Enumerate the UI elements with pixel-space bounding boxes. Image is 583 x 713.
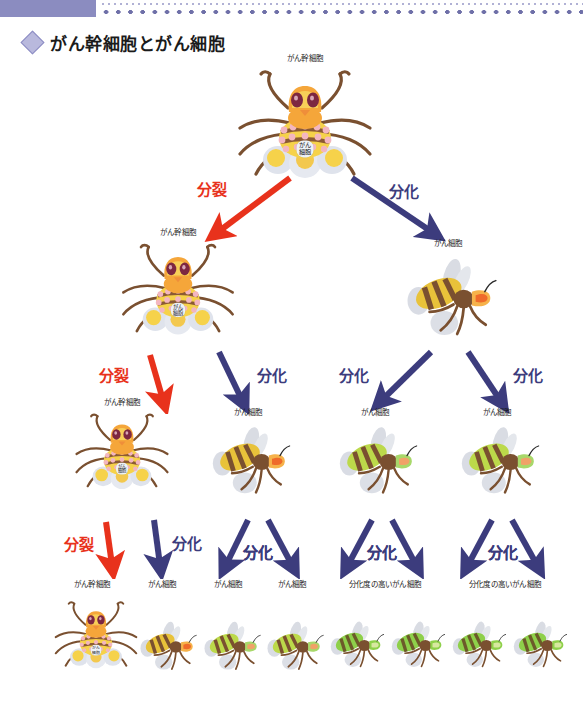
- cancer-stem-cell[interactable]: がん細胞: [115, 242, 241, 336]
- cancer-cell-badge: がん細胞: [91, 645, 102, 656]
- cell-caption: がん細胞: [483, 406, 512, 417]
- cancer-cell[interactable]: [135, 618, 198, 671]
- cell-caption: 分化度の高いがん細胞: [469, 578, 541, 589]
- differentiation-label: 分化: [243, 541, 274, 562]
- cell-caption: がん細胞: [214, 578, 243, 589]
- high-differentiated-cancer-cell[interactable]: [386, 618, 445, 669]
- cell-caption: がん幹細胞: [287, 52, 323, 63]
- cancer-cell-badge: がん細胞: [116, 462, 128, 474]
- cancer-cell[interactable]: [199, 618, 262, 671]
- cell-caption: がん幹細胞: [104, 396, 140, 407]
- arrow-graphic: [92, 508, 126, 579]
- division-label: 分裂: [99, 364, 130, 385]
- cancer-cell[interactable]: [332, 422, 418, 496]
- diagram-canvas: 分裂 分化がん幹細胞: [0, 0, 583, 713]
- cell-caption: がん幹細胞: [74, 578, 110, 589]
- differentiation-label: 分化: [488, 541, 519, 562]
- cell-caption: がん細胞: [148, 578, 177, 589]
- cell-caption: がん幹細胞: [160, 226, 196, 237]
- cancer-cell[interactable]: [262, 618, 325, 671]
- differentiation-label: 分化: [389, 180, 420, 201]
- cell-caption: がん細胞: [278, 578, 307, 589]
- high-differentiated-cancer-cell[interactable]: [508, 618, 567, 669]
- cancer-cell-badge: がん細胞: [171, 302, 185, 316]
- arrow-graphic: [140, 506, 174, 579]
- cancer-cell-badge: がん細胞: [297, 140, 314, 157]
- differentiation-label: 分化: [367, 541, 398, 562]
- arrow-graphic: [136, 341, 177, 414]
- division-label: 分裂: [197, 178, 228, 199]
- differentiation-label: 分化: [257, 364, 288, 385]
- high-differentiated-cancer-cell[interactable]: [325, 618, 384, 669]
- cancer-cell[interactable]: [454, 422, 540, 496]
- differentiation-label: 分化: [172, 532, 203, 553]
- arrow-graphic: [205, 338, 256, 414]
- arrow-graphic: [368, 338, 445, 414]
- cell-caption: がん細胞: [234, 406, 263, 417]
- cancer-stem-cell[interactable]: がん細胞: [230, 68, 380, 180]
- cell-caption: がん細胞: [361, 406, 390, 417]
- cell-caption: 分化度の高いがん細胞: [349, 578, 421, 589]
- division-label: 分裂: [64, 533, 95, 554]
- cancer-cell[interactable]: [398, 253, 497, 338]
- differentiation-label: 分化: [339, 364, 370, 385]
- cancer-stem-cell[interactable]: がん細胞: [50, 600, 143, 669]
- cancer-cell[interactable]: [205, 422, 291, 496]
- high-differentiated-cancer-cell[interactable]: [447, 618, 506, 669]
- cancer-stem-cell[interactable]: がん細胞: [70, 412, 175, 490]
- diagram-page: がん幹細胞とがん細胞 分裂 分化がん幹細胞: [0, 0, 583, 713]
- differentiation-label: 分化: [513, 364, 544, 385]
- arrow-graphic: [454, 338, 514, 414]
- cell-caption: がん細胞: [434, 237, 463, 248]
